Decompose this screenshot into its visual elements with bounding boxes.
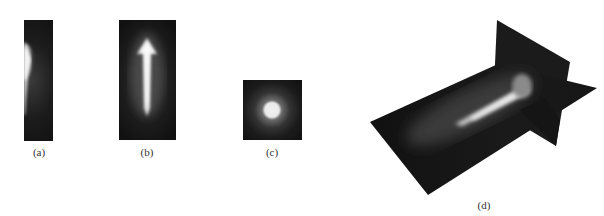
panel-d-3d-slices — [0, 0, 604, 216]
panel-d-label: (d) — [478, 199, 491, 211]
